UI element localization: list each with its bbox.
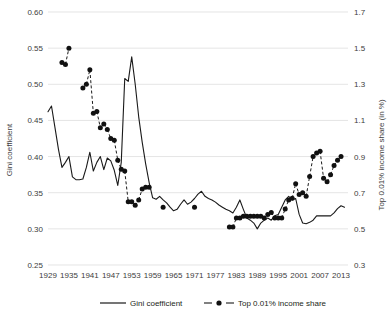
legend-label-top-share: Top 0.01% income share <box>238 299 327 308</box>
x-tick-label: 1935 <box>60 271 78 280</box>
right-axis-title: Top 0.01% income share (in %) <box>377 99 386 211</box>
left-tick-label: 0.30 <box>27 225 43 234</box>
data-point-marker <box>133 203 138 208</box>
data-point-marker <box>304 194 309 199</box>
data-point-marker <box>293 181 298 186</box>
data-point-marker <box>66 46 71 51</box>
data-point-marker <box>269 210 274 215</box>
right-tick-label: 0.9 <box>354 153 366 162</box>
right-tick-label: 0.3 <box>354 261 366 270</box>
data-point-marker <box>98 125 103 130</box>
right-tick-label: 0.5 <box>354 225 366 234</box>
data-point-marker <box>84 82 89 87</box>
data-point-marker <box>325 179 330 184</box>
chart-container: 0.250.300.350.400.450.500.550.60 0.30.50… <box>0 0 392 318</box>
x-tick-label: 2013 <box>332 271 350 280</box>
data-point-marker <box>262 216 267 221</box>
data-point-marker <box>279 216 284 221</box>
left-tick-label: 0.55 <box>27 44 43 53</box>
data-point-marker <box>311 154 316 159</box>
data-point-marker <box>192 205 197 210</box>
legend-swatch-top-marker <box>216 300 221 305</box>
data-point-marker <box>328 172 333 177</box>
x-tick-label: 1959 <box>144 271 162 280</box>
left-tick-label: 0.60 <box>27 8 43 17</box>
x-tick-label: 1995 <box>269 271 287 280</box>
x-tick-label: 2001 <box>290 271 308 280</box>
data-point-marker <box>321 176 326 181</box>
data-point-marker <box>283 206 288 211</box>
left-tick-label: 0.35 <box>27 189 43 198</box>
data-point-marker <box>112 138 117 143</box>
data-point-marker <box>63 62 68 67</box>
x-tick-label: 1965 <box>165 271 183 280</box>
x-tick-label: 1977 <box>207 271 225 280</box>
data-point-marker <box>307 174 312 179</box>
data-point-marker <box>290 196 295 201</box>
left-axis-title: Gini coefficient <box>5 123 14 176</box>
x-tick-label: 1983 <box>227 271 245 280</box>
data-point-marker <box>161 205 166 210</box>
data-point-marker <box>129 199 134 204</box>
data-point-marker <box>335 158 340 163</box>
data-point-marker <box>339 154 344 159</box>
x-tick-label: 1929 <box>39 271 57 280</box>
left-tick-label: 0.50 <box>27 80 43 89</box>
right-tick-label: 1.5 <box>354 44 366 53</box>
right-tick-label: 1.1 <box>354 116 366 125</box>
left-tick-label: 0.25 <box>27 261 43 270</box>
data-point-marker <box>101 122 106 127</box>
data-point-marker <box>105 127 110 132</box>
data-point-marker <box>87 67 92 72</box>
income-inequality-chart: 0.250.300.350.400.450.500.550.60 0.30.50… <box>0 0 392 318</box>
x-axis-tick-labels: 1929193519411947195319591965197119771983… <box>39 271 350 280</box>
left-tick-label: 0.45 <box>27 116 43 125</box>
right-tick-label: 1.7 <box>354 8 366 17</box>
data-point-marker <box>318 149 323 154</box>
data-point-marker <box>136 197 141 202</box>
data-point-marker <box>147 185 152 190</box>
x-tick-label: 2007 <box>311 271 329 280</box>
x-tick-label: 1953 <box>123 271 141 280</box>
data-point-marker <box>122 169 127 174</box>
data-point-marker <box>230 225 235 230</box>
right-tick-label: 0.7 <box>354 189 366 198</box>
data-point-marker <box>300 190 305 195</box>
x-tick-label: 1989 <box>248 271 266 280</box>
data-point-marker <box>80 85 85 90</box>
x-tick-label: 1941 <box>81 271 99 280</box>
data-point-marker <box>94 109 99 114</box>
left-tick-label: 0.40 <box>27 153 43 162</box>
right-tick-label: 1.3 <box>354 80 366 89</box>
data-point-marker <box>332 163 337 168</box>
x-tick-label: 1947 <box>102 271 120 280</box>
x-tick-label: 1971 <box>186 271 204 280</box>
data-point-marker <box>115 158 120 163</box>
legend-label-gini: Gini coefficient <box>130 299 183 308</box>
